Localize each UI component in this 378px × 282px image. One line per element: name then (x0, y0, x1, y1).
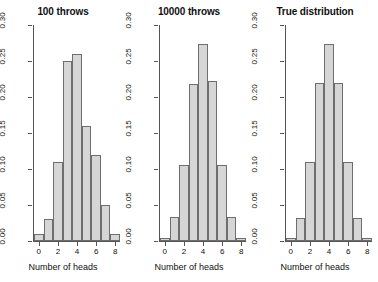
panel-true-distribution: True distribution 0.000.050.100.150.200.… (252, 0, 378, 282)
histogram-bar (53, 162, 63, 241)
y-tick-mark (28, 25, 32, 26)
y-tick-label: 0.25 (0, 48, 7, 64)
y-tick-label: 0.05 (124, 192, 133, 208)
histogram-bar (296, 218, 306, 241)
histogram-bar (362, 238, 372, 241)
y-tick-label: 0.10 (250, 156, 259, 172)
y-tick-label: 0.15 (124, 120, 133, 136)
y-tick-label: 0.30 (250, 12, 259, 28)
x-tick-mark (291, 242, 292, 246)
x-tick-label: 8 (108, 247, 122, 256)
x-tick-mark (77, 242, 78, 246)
y-tick-label: 0.30 (124, 12, 133, 28)
y-tick-mark (154, 25, 158, 26)
y-tick-label: 0.00 (0, 228, 7, 244)
x-tick-mark (329, 242, 330, 246)
y-tick-mark (28, 61, 32, 62)
y-tick-mark (154, 61, 158, 62)
y-tick-mark (28, 205, 32, 206)
x-tick-label: 0 (32, 247, 46, 256)
x-tick-label: 0 (158, 247, 172, 256)
x-tick-mark (165, 242, 166, 246)
y-tick-label: 0.25 (124, 48, 133, 64)
y-tick-mark (280, 205, 284, 206)
x-tick-label: 2 (303, 247, 317, 256)
bar-group (160, 25, 246, 241)
panel-title: True distribution (252, 6, 378, 17)
y-tick-mark (28, 169, 32, 170)
y-tick-label: 0.10 (124, 156, 133, 172)
x-tick-mark (241, 242, 242, 246)
y-tick-mark (280, 61, 284, 62)
x-tick-label: 4 (322, 247, 336, 256)
y-tick-mark (28, 133, 32, 134)
histogram-bar (101, 205, 111, 241)
plot-area (286, 25, 372, 241)
plot-area (160, 25, 246, 241)
y-tick-label: 0.00 (250, 228, 259, 244)
x-tick-mark (348, 242, 349, 246)
panel-title: 10000 throws (126, 6, 252, 17)
y-tick-mark (154, 205, 158, 206)
x-tick-mark (310, 242, 311, 246)
histogram-bar (179, 165, 189, 241)
x-axis-title: Number of heads (126, 262, 252, 272)
x-tick-label: 4 (196, 247, 210, 256)
y-tick-label: 0.20 (250, 84, 259, 100)
bar-group (34, 25, 120, 241)
panel-title: 100 throws (0, 6, 126, 17)
histogram-bar (63, 61, 73, 241)
x-tick-label: 6 (341, 247, 355, 256)
histogram-bar (208, 81, 218, 241)
y-tick-mark (28, 97, 32, 98)
y-tick-mark (154, 97, 158, 98)
y-tick-mark (280, 241, 284, 242)
histogram-bar (315, 83, 325, 241)
x-axis-title: Number of heads (252, 262, 378, 272)
y-tick-mark (154, 169, 158, 170)
histogram-bar (44, 219, 54, 241)
x-tick-mark (184, 242, 185, 246)
histogram-bar (91, 155, 101, 241)
y-tick-label: 0.15 (250, 120, 259, 136)
histogram-bar (217, 165, 227, 241)
x-tick-label: 0 (284, 247, 298, 256)
y-tick-mark (280, 169, 284, 170)
panel-10000-throws: 10000 throws 0.000.050.100.150.200.250.3… (126, 0, 252, 282)
histogram-bar (334, 83, 344, 241)
x-tick-mark (203, 242, 204, 246)
histogram-bar (227, 217, 237, 241)
x-tick-mark (58, 242, 59, 246)
histogram-bar (305, 162, 315, 241)
histogram-figure: 100 throws 0.000.050.100.150.200.250.30 … (0, 0, 378, 282)
histogram-bar (353, 218, 363, 241)
x-axis-title: Number of heads (0, 262, 126, 272)
y-tick-label: 0.00 (124, 228, 133, 244)
histogram-bar (198, 44, 208, 241)
histogram-bar (286, 238, 296, 241)
y-tick-mark (154, 241, 158, 242)
y-tick-mark (280, 25, 284, 26)
x-tick-label: 4 (70, 247, 84, 256)
x-tick-label: 8 (360, 247, 374, 256)
histogram-bar (236, 238, 246, 241)
x-tick-mark (115, 242, 116, 246)
plot-area (34, 25, 120, 241)
histogram-bar (189, 84, 199, 241)
y-tick-mark (154, 133, 158, 134)
x-tick-mark (39, 242, 40, 246)
x-tick-mark (222, 242, 223, 246)
x-tick-label: 8 (234, 247, 248, 256)
y-tick-label: 0.30 (0, 12, 7, 28)
histogram-bar (324, 44, 334, 241)
y-tick-label: 0.20 (124, 84, 133, 100)
y-tick-label: 0.20 (0, 84, 7, 100)
y-tick-label: 0.05 (0, 192, 7, 208)
y-tick-label: 0.05 (250, 192, 259, 208)
histogram-bar (72, 54, 82, 241)
histogram-bar (34, 234, 44, 241)
y-tick-mark (280, 97, 284, 98)
bar-group (286, 25, 372, 241)
histogram-bar (160, 238, 170, 241)
panel-100-throws: 100 throws 0.000.050.100.150.200.250.30 … (0, 0, 126, 282)
